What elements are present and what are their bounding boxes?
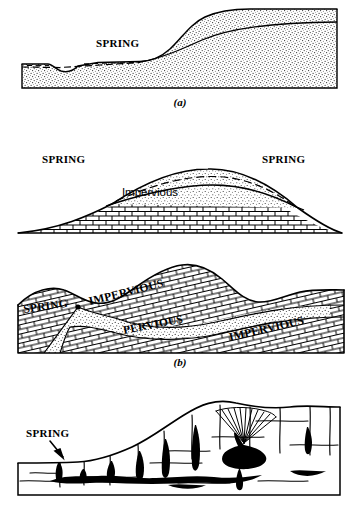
spring-label-right-b: SPRING <box>262 153 306 165</box>
spring-point-c <box>75 304 80 309</box>
panel-d: SPRING (d) <box>0 385 360 521</box>
panel-a-caption: (a) <box>0 96 360 108</box>
spring-label-a: SPRING <box>96 37 140 49</box>
spring-types-figure: SPRING (a) <box>0 0 360 521</box>
sand-body-a <box>22 9 337 88</box>
panel-c: SPRING IMPERVIOUS PERVIOUS IMPERVIOUS (c… <box>0 255 360 385</box>
spring-label-d: SPRING <box>26 427 70 439</box>
panel-b: SPRING SPRING Impervious (b) <box>0 130 360 255</box>
spring-label-left-b: SPRING <box>42 153 86 165</box>
impervious-label-b: Impervious <box>122 186 178 198</box>
spring-arrow-d <box>50 441 63 458</box>
panel-a: SPRING (a) <box>0 0 360 130</box>
